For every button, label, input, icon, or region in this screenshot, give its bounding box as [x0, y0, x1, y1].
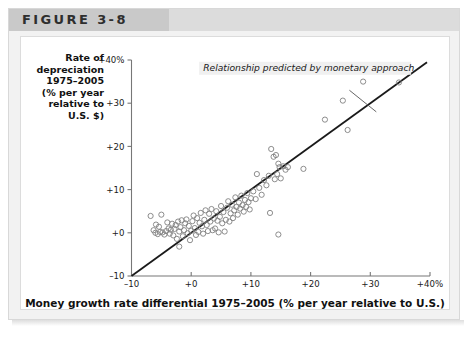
data-point: [322, 117, 327, 122]
data-point: [233, 195, 238, 200]
data-point: [259, 192, 264, 197]
data-point: [174, 236, 179, 241]
data-point: [247, 207, 252, 212]
y-axis-tick-label: –10: [109, 271, 124, 281]
data-point: [159, 212, 164, 217]
data-point: [217, 214, 222, 219]
data-point: [253, 197, 258, 202]
data-point: [187, 238, 192, 243]
data-point: [257, 185, 262, 190]
data-point: [264, 183, 269, 188]
data-point: [248, 196, 253, 201]
data-point: [340, 98, 345, 103]
trendline: [132, 62, 428, 276]
data-point: [190, 219, 195, 224]
annotation-label: Relationship predicted by monetary appro…: [203, 62, 414, 73]
x-axis-tick-label: +40%: [417, 279, 443, 289]
data-point: [181, 228, 186, 233]
data-point: [278, 176, 283, 181]
data-point: [216, 230, 221, 235]
data-point: [177, 244, 182, 249]
data-point: [276, 232, 281, 237]
figure-root: FIGURE 3-8 Rate of depreciation 1975–200…: [0, 0, 470, 338]
y-axis-tick-label: +40%: [98, 55, 124, 65]
x-axis-tick-label: +0: [185, 279, 198, 289]
data-point: [148, 213, 153, 218]
y-axis-tick-label: +10: [106, 185, 124, 195]
x-axis-tick-label: +10: [242, 279, 260, 289]
data-point: [202, 217, 207, 222]
y-axis-tick-label: +30: [106, 98, 124, 108]
tick-label-layer: –10+0+10+20+30+40%–10+0+10+20+30+40%: [98, 55, 443, 289]
data-point: [191, 213, 196, 218]
data-point: [235, 212, 240, 217]
data-point: [275, 171, 280, 176]
data-point: [345, 127, 350, 132]
x-axis-tick-label: +30: [361, 279, 379, 289]
y-axis-tick-label: +0: [112, 228, 125, 238]
data-point: [276, 161, 281, 166]
y-axis-tick-label: +20: [106, 142, 124, 152]
data-point: [201, 231, 206, 236]
data-point: [198, 210, 203, 215]
data-point: [272, 177, 277, 182]
x-axis-tick-label: +20: [302, 279, 320, 289]
data-points-layer: [148, 79, 402, 249]
data-point: [301, 166, 306, 171]
data-point: [205, 228, 210, 233]
data-point: [254, 171, 259, 176]
data-point: [269, 146, 274, 151]
data-point: [218, 203, 223, 208]
trendline-layer: [132, 62, 428, 276]
data-point: [236, 200, 241, 205]
data-point: [361, 79, 366, 84]
x-axis-tick-label: –10: [124, 279, 139, 289]
annotation-layer: Relationship predicted by monetary appro…: [199, 62, 414, 112]
data-point: [267, 210, 272, 215]
data-point: [214, 209, 219, 214]
data-point: [251, 189, 256, 194]
data-point: [222, 229, 227, 234]
data-point: [230, 216, 235, 221]
scatter-plot: –10+0+10+20+30+40%–10+0+10+20+30+40% Rel…: [0, 0, 470, 338]
